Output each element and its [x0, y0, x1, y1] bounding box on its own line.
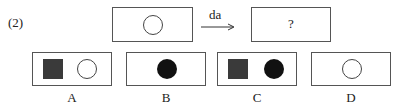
black-circle-icon — [157, 59, 177, 79]
option-d-box[interactable] — [311, 52, 391, 86]
option-a-label: A — [32, 90, 112, 106]
option-a-box[interactable] — [32, 52, 112, 86]
transform-label: da — [209, 7, 221, 23]
option-b-label: B — [126, 90, 206, 106]
black-circle-icon — [264, 59, 284, 79]
dark-square-icon — [43, 59, 63, 79]
dark-square-icon — [228, 59, 248, 79]
question-mark: ? — [252, 16, 330, 32]
result-figure-box: ? — [251, 7, 331, 42]
option-b-box[interactable] — [126, 52, 206, 86]
option-c-box[interactable] — [217, 52, 297, 86]
white-circle-icon — [143, 15, 163, 35]
question-number: (2) — [8, 15, 23, 31]
option-d-label: D — [311, 90, 391, 106]
option-c-label: C — [217, 90, 297, 106]
white-circle-icon — [77, 59, 97, 79]
white-circle-icon — [342, 59, 362, 79]
arrow-right-icon — [200, 22, 236, 32]
source-figure-box — [112, 7, 193, 42]
